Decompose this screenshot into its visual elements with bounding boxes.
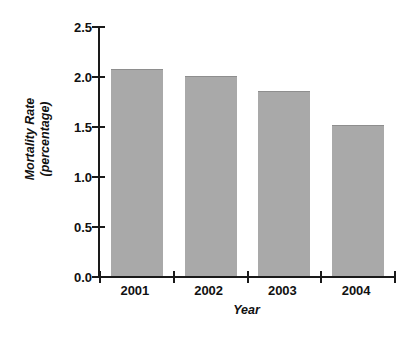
- y-axis-title-line2: (percentage): [38, 97, 53, 180]
- bar: [111, 69, 163, 276]
- y-axis-tick-label: 2.5: [58, 20, 92, 35]
- plot-area: [100, 27, 395, 276]
- x-axis-tick-labels: 2001200220032004: [98, 283, 395, 303]
- x-axis-tick-label: 2002: [194, 283, 223, 298]
- bar: [332, 125, 384, 276]
- y-axis-tick-label: 0.0: [58, 270, 92, 285]
- bar: [258, 91, 310, 276]
- x-axis-tick-label: 2001: [120, 283, 149, 298]
- bar: [185, 76, 237, 276]
- y-axis-tick-labels: 0.00.51.01.52.02.5: [56, 0, 92, 339]
- x-axis-tick-label: 2004: [342, 283, 371, 298]
- y-axis-title-line1: Mortality Rate: [23, 97, 38, 180]
- bar-chart: Mortality Rate (percentage) 0.00.51.01.5…: [0, 0, 413, 339]
- y-axis-tick-label: 2.0: [58, 70, 92, 85]
- x-axis-title: Year: [98, 303, 395, 317]
- x-axis-tick-label: 2003: [268, 283, 297, 298]
- y-axis-tick-label: 1.0: [58, 170, 92, 185]
- y-axis-tick-label: 0.5: [58, 220, 92, 235]
- y-axis-tick-label: 1.5: [58, 120, 92, 135]
